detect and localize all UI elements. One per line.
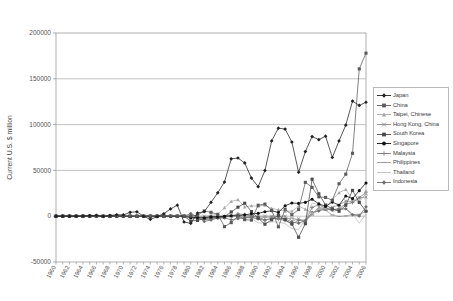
svg-text:1992: 1992 [261, 264, 273, 279]
svg-text:1980: 1980 [180, 264, 192, 279]
legend-label-japan: Japan [392, 91, 408, 101]
svg-text:1966: 1966 [86, 264, 98, 279]
chart-container: -500000500001000001500002000001960196219… [0, 0, 453, 301]
svg-text:1982: 1982 [194, 264, 206, 279]
legend-marker-hong-kong-china [376, 120, 392, 129]
svg-text:1962: 1962 [59, 264, 71, 279]
svg-text:1994: 1994 [274, 264, 286, 279]
svg-text:200000: 200000 [29, 29, 51, 36]
svg-text:100000: 100000 [29, 121, 51, 128]
svg-text:1984: 1984 [207, 264, 219, 279]
svg-text:2004: 2004 [342, 264, 354, 279]
svg-text:1976: 1976 [153, 264, 165, 279]
svg-text:1996: 1996 [288, 264, 300, 279]
svg-text:0: 0 [47, 212, 51, 219]
svg-text:1968: 1968 [99, 264, 111, 279]
legend-marker-philippines [376, 158, 392, 167]
svg-text:2000: 2000 [315, 264, 327, 279]
legend-marker-thailand [376, 168, 392, 177]
legend-marker-japan [376, 91, 392, 100]
svg-text:50000: 50000 [33, 167, 51, 174]
legend-item-taipei-chinese[interactable]: Taipei, Chinese [376, 110, 446, 120]
legend-label-south-korea: South Korea [392, 129, 424, 139]
legend-label-philippines: Philippines [392, 158, 420, 168]
svg-text:2002: 2002 [328, 264, 340, 279]
legend-item-singapore[interactable]: Singapore [376, 139, 446, 149]
legend-label-indonesia: Indonesia [392, 177, 417, 187]
svg-text:1960: 1960 [45, 264, 57, 279]
legend-item-thailand[interactable]: Thailand [376, 168, 446, 178]
legend-marker-singapore [376, 139, 392, 148]
svg-text:150000: 150000 [29, 75, 51, 82]
svg-text:1972: 1972 [126, 264, 138, 279]
chart-legend: Japan China Taipei, Chinese Hong Kong, C… [373, 87, 449, 191]
svg-text:2006: 2006 [355, 264, 367, 279]
legend-item-japan[interactable]: Japan [376, 91, 446, 101]
legend-marker-malaysia [376, 149, 392, 158]
legend-label-taipei-chinese: Taipei, Chinese [392, 110, 431, 120]
svg-text:1990: 1990 [247, 264, 259, 279]
svg-text:1970: 1970 [113, 264, 125, 279]
svg-text:Current U.S. $ million: Current U.S. $ million [6, 115, 13, 180]
svg-text:1974: 1974 [140, 264, 152, 279]
legend-item-china[interactable]: China [376, 101, 446, 111]
legend-item-hong-kong-china[interactable]: Hong Kong, China [376, 120, 446, 130]
svg-text:1964: 1964 [72, 264, 84, 279]
legend-marker-china [376, 101, 392, 110]
legend-item-south-korea[interactable]: South Korea [376, 129, 446, 139]
svg-text:1986: 1986 [221, 264, 233, 279]
legend-item-malaysia[interactable]: Malaysia [376, 149, 446, 159]
svg-text:1998: 1998 [301, 264, 313, 279]
legend-label-china: China [392, 101, 408, 111]
legend-label-hong-kong-china: Hong Kong, China [392, 120, 439, 130]
legend-item-philippines[interactable]: Philippines [376, 158, 446, 168]
legend-label-malaysia: Malaysia [392, 149, 415, 159]
legend-item-indonesia[interactable]: Indonesia [376, 177, 446, 187]
legend-label-singapore: Singapore [392, 139, 419, 149]
svg-text:-50000: -50000 [31, 258, 52, 265]
svg-text:1988: 1988 [234, 264, 246, 279]
legend-marker-indonesia [376, 178, 392, 187]
legend-label-thailand: Thailand [392, 168, 414, 178]
legend-marker-south-korea [376, 130, 392, 139]
legend-marker-taipei-chinese [376, 110, 392, 119]
svg-text:1978: 1978 [167, 264, 179, 279]
